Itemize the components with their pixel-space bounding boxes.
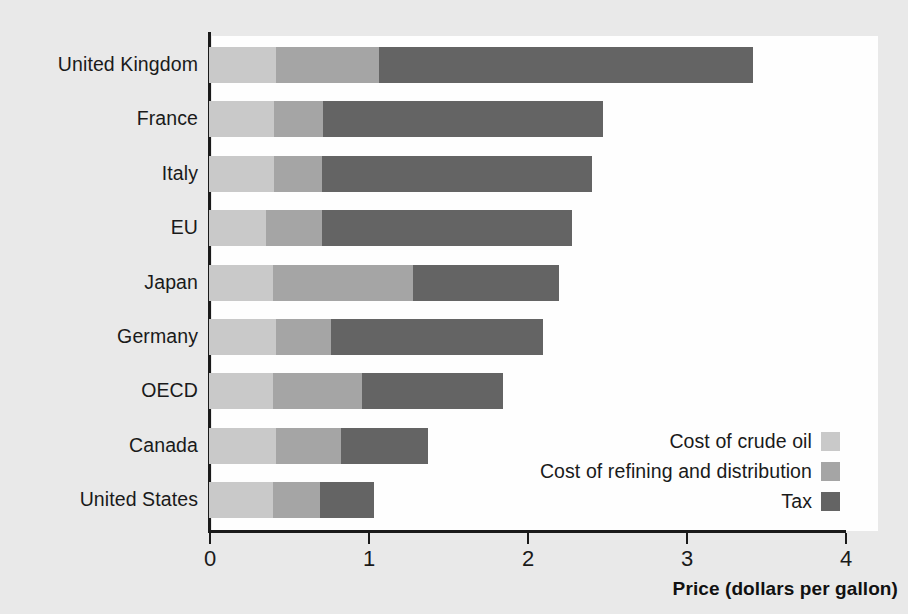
bar-segment — [331, 319, 542, 355]
bar-segment — [341, 428, 428, 464]
bar-row — [209, 101, 603, 137]
bar-segment — [322, 156, 592, 192]
bar-segment — [379, 47, 753, 83]
chart-figure: United KingdomFranceItalyEUJapanGermanyO… — [0, 0, 908, 614]
bar-segment — [209, 373, 273, 409]
category-label: Canada — [0, 434, 198, 457]
bar-segment — [209, 210, 266, 246]
category-label: France — [0, 107, 198, 130]
bar-row — [209, 210, 572, 246]
x-tick-mark — [686, 533, 688, 544]
legend-label: Tax — [781, 490, 812, 513]
bar-row — [209, 428, 428, 464]
legend-swatch — [821, 432, 840, 451]
x-axis-title: Price (dollars per gallon) — [0, 578, 898, 600]
bar-row — [209, 373, 503, 409]
category-axis-labels: United KingdomFranceItalyEUJapanGermanyO… — [0, 36, 198, 531]
bar-segment — [273, 373, 362, 409]
bar-segment — [320, 482, 374, 518]
bar-row — [209, 319, 543, 355]
category-label: Germany — [0, 325, 198, 348]
bar-segment — [209, 482, 273, 518]
bar-segment — [209, 428, 276, 464]
x-tick-mark — [845, 533, 847, 544]
legend-label: Cost of refining and distribution — [540, 460, 812, 483]
legend-item: Tax — [430, 486, 840, 516]
bar-row — [209, 265, 559, 301]
bar-row — [209, 156, 592, 192]
bar-segment — [323, 101, 603, 137]
category-label: OECD — [0, 379, 198, 402]
x-tick-label: 3 — [667, 546, 707, 572]
bar-segment — [209, 47, 276, 83]
bar-segment — [209, 265, 273, 301]
legend-label: Cost of crude oil — [669, 430, 812, 453]
bar-segment — [413, 265, 559, 301]
legend-swatch — [821, 462, 840, 481]
category-label: United Kingdom — [0, 53, 198, 76]
category-label: United States — [0, 488, 198, 511]
legend-swatch — [821, 492, 840, 511]
bar-segment — [273, 265, 413, 301]
x-tick-mark — [368, 533, 370, 544]
bar-segment — [274, 101, 323, 137]
category-label: Japan — [0, 271, 198, 294]
bar-segment — [274, 156, 322, 192]
chart-legend: Cost of crude oilCost of refining and di… — [430, 426, 840, 516]
bar-segment — [276, 319, 332, 355]
x-tick-mark — [527, 533, 529, 544]
x-tick-label: 4 — [826, 546, 866, 572]
legend-item: Cost of crude oil — [430, 426, 840, 456]
bar-segment — [209, 156, 274, 192]
bar-segment — [276, 428, 341, 464]
x-tick-label: 0 — [190, 546, 230, 572]
category-label: EU — [0, 216, 198, 239]
bar-row — [209, 47, 753, 83]
bar-segment — [273, 482, 321, 518]
bar-segment — [362, 373, 504, 409]
bar-segment — [276, 47, 379, 83]
category-label: Italy — [0, 162, 198, 185]
bar-segment — [209, 101, 274, 137]
bar-segment — [266, 210, 322, 246]
bar-segment — [322, 210, 572, 246]
x-tick-label: 2 — [508, 546, 548, 572]
x-tick-label: 1 — [349, 546, 389, 572]
bar-segment — [209, 319, 276, 355]
legend-item: Cost of refining and distribution — [430, 456, 840, 486]
x-tick-mark — [209, 533, 211, 544]
bar-row — [209, 482, 374, 518]
